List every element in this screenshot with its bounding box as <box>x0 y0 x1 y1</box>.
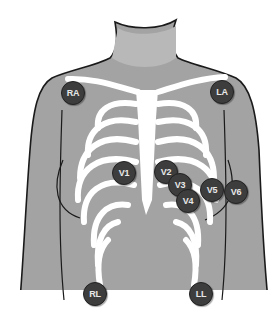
electrode-ll: LL <box>189 282 213 306</box>
electrode-label: RA <box>67 88 80 98</box>
electrode-label: LL <box>196 289 207 299</box>
electrode-label: LA <box>216 87 228 97</box>
torso-illustration <box>0 0 279 321</box>
electrode-label: RL <box>89 289 101 299</box>
electrode-la: LA <box>210 80 234 104</box>
electrode-v5: V5 <box>200 178 224 202</box>
electrode-ra: RA <box>61 81 85 105</box>
electrode-v1: V1 <box>112 161 136 185</box>
electrode-v4: V4 <box>176 189 200 213</box>
electrode-rl: RL <box>83 282 107 306</box>
electrode-label: V1 <box>119 168 130 178</box>
electrode-v6: V6 <box>224 180 248 204</box>
electrode-label: V6 <box>231 187 242 197</box>
electrode-label: V4 <box>183 196 194 206</box>
ecg-placement-diagram: RA LA V1 V2 V3 V4 V5 V6 RL LL <box>0 0 279 321</box>
electrode-label: V2 <box>161 167 172 177</box>
electrode-label: V5 <box>207 185 218 195</box>
